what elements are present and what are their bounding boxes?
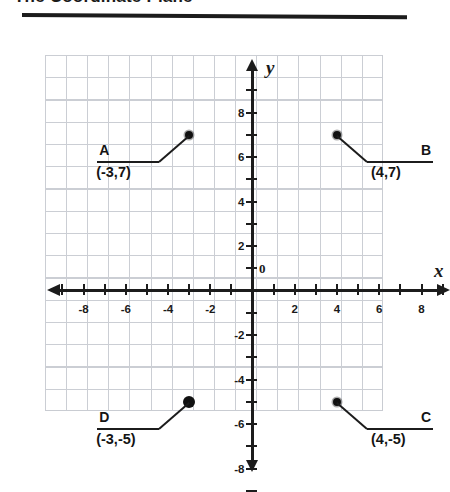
point-coordinates-c: (4,-5) xyxy=(371,431,406,447)
x-tick-label: -8 xyxy=(78,303,88,315)
y-tick-label: 2 xyxy=(223,240,245,252)
x-tick-mark xyxy=(104,284,106,295)
y-tick-label: -8 xyxy=(223,463,245,475)
x-tick-mark xyxy=(146,284,148,295)
point-label-b: B xyxy=(421,142,431,158)
point-coordinates-b: (4,7) xyxy=(371,164,401,180)
y-tick-label: -2 xyxy=(223,329,245,341)
x-tick-mark xyxy=(273,284,275,295)
y-tick-mark xyxy=(246,89,257,91)
y-tick-label: 4 xyxy=(223,196,245,208)
origin-label: 0 xyxy=(259,261,266,277)
y-tick-mark xyxy=(246,445,257,447)
grid-border xyxy=(45,55,383,411)
x-axis-line xyxy=(53,289,441,292)
x-tick-mark xyxy=(336,284,338,295)
x-tick-label: -4 xyxy=(163,303,173,315)
point-coordinates-a: (-3,7) xyxy=(96,164,131,180)
point-label-c: C xyxy=(421,409,431,425)
y-tick-mark xyxy=(246,356,257,358)
x-tick-label: -6 xyxy=(121,303,131,315)
point-label-d: D xyxy=(99,409,109,425)
page-title: The Coordinate Plane xyxy=(14,0,193,7)
x-tick-mark xyxy=(315,284,317,295)
x-tick-mark xyxy=(357,284,359,295)
y-tick-mark xyxy=(246,156,257,158)
y-tick-mark xyxy=(246,178,257,180)
y-tick-mark xyxy=(246,134,257,136)
coordinate-plane-figure: x y 0 -8-6-4-224688642-2-4-6-8 A(-3,7)B(… xyxy=(0,30,419,448)
y-tick-mark xyxy=(246,267,257,269)
point-coordinates-d: (-3,-5) xyxy=(96,431,135,447)
callout-underline-d xyxy=(97,428,159,430)
y-tick-mark xyxy=(246,423,257,425)
point-label-a: A xyxy=(99,142,109,158)
y-axis-label: y xyxy=(266,57,274,79)
title-divider xyxy=(22,13,407,19)
x-tick-mark xyxy=(421,284,423,295)
y-tick-mark xyxy=(246,490,257,492)
x-tick-mark xyxy=(230,284,232,295)
plot-area: x y 0 -8-6-4-224688642-2-4-6-8 A(-3,7)B(… xyxy=(45,55,383,411)
callout-underline-b xyxy=(367,161,433,163)
y-tick-label: -4 xyxy=(223,374,245,386)
x-tick-mark xyxy=(167,284,169,295)
y-tick-label: 8 xyxy=(223,107,245,119)
x-tick-label: -2 xyxy=(205,303,215,315)
y-tick-mark xyxy=(246,401,257,403)
x-axis-label: x xyxy=(434,260,444,282)
x-tick-label: 2 xyxy=(292,303,298,315)
y-tick-mark xyxy=(246,312,257,314)
x-tick-label: 8 xyxy=(418,303,424,315)
y-tick-mark xyxy=(246,245,257,247)
x-tick-mark xyxy=(399,284,401,295)
y-tick-mark xyxy=(246,334,257,336)
y-tick-mark xyxy=(246,112,257,114)
y-tick-label: -6 xyxy=(223,418,245,430)
x-tick-label: 4 xyxy=(334,303,340,315)
x-tick-mark xyxy=(294,284,296,295)
callout-underline-a xyxy=(97,161,159,163)
x-tick-mark xyxy=(209,284,211,295)
x-tick-mark xyxy=(378,284,380,295)
y-tick-mark xyxy=(246,468,257,470)
y-tick-mark xyxy=(246,379,257,381)
x-tick-mark xyxy=(83,284,85,295)
callout-underline-c xyxy=(367,428,433,430)
x-tick-label: 6 xyxy=(376,303,382,315)
y-axis-down-arrow-icon xyxy=(246,460,258,472)
x-axis-left-arrow-icon xyxy=(47,284,60,296)
y-tick-mark xyxy=(246,223,257,225)
x-tick-mark xyxy=(442,284,444,295)
x-tick-mark xyxy=(188,284,190,295)
y-axis-up-arrow-icon xyxy=(246,59,258,71)
x-tick-mark xyxy=(125,284,127,295)
y-tick-label: 6 xyxy=(223,151,245,163)
x-tick-mark xyxy=(61,284,63,295)
y-tick-mark xyxy=(246,201,257,203)
